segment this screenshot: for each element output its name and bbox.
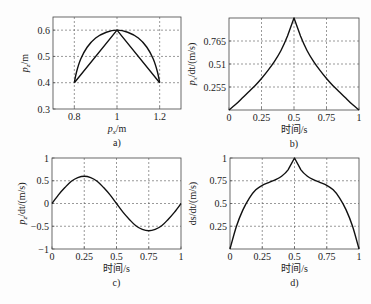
y-tick-label: 1 <box>222 153 227 164</box>
y-axis-label: pz/m <box>19 54 32 74</box>
x-axis-label: px/m <box>107 123 127 136</box>
y-tick-label: 0.765 <box>204 36 227 47</box>
x-tick-label: 0.75 <box>318 112 336 123</box>
y-tick-label: 0.4 <box>38 77 51 88</box>
x-tick-label: 0.5 <box>288 112 301 123</box>
y-tick-label: 0.5 <box>37 175 50 186</box>
subplot-caption: a) <box>113 137 121 149</box>
x-tick-label: 0.25 <box>254 251 272 262</box>
subplot-caption: c) <box>113 277 121 289</box>
subplot-d: 00.250.50.7510.250.50.751时间/sds/dt/(m/s)… <box>187 153 362 290</box>
y-tick-label: 0.25 <box>210 221 228 232</box>
x-tick-label: 0 <box>50 251 55 262</box>
x-tick-label: 1 <box>357 112 362 123</box>
x-tick-label: 0.5 <box>110 251 123 262</box>
x-axis-label: 时间/s <box>103 262 130 274</box>
x-tick-label: 0.8 <box>68 111 81 122</box>
y-axis-label: px/dt/(m/s) <box>186 43 199 87</box>
x-tick-label: 1 <box>115 111 120 122</box>
figure: 0.811.20.30.40.50.6px/mpz/ma) 00.250.50.… <box>0 0 371 304</box>
y-tick-labels: 0.2550.510.765 <box>204 36 232 93</box>
x-tick-label: 0 <box>228 251 233 262</box>
x-tick-label: 0.75 <box>140 251 158 262</box>
y-tick-label: 0.3 <box>38 104 51 115</box>
y-tick-label: 0.75 <box>210 175 228 186</box>
y-tick-labels: 0.250.50.751 <box>210 153 233 232</box>
x-tick-label: 1 <box>179 251 184 262</box>
y-tick-label: −0.5 <box>31 221 49 232</box>
x-axis-label: 时间/s <box>281 123 308 135</box>
x-axis-label: 时间/s <box>281 262 308 274</box>
y-tick-label: 0.255 <box>204 82 227 93</box>
y-tick-label: 0 <box>44 198 49 209</box>
subplot-caption: d) <box>290 277 298 289</box>
subplot-c: 00.250.50.751−1−0.500.51时间/spz/dt/(m/s)c… <box>16 153 184 290</box>
y-tick-label: 0.6 <box>38 25 51 36</box>
x-tick-label: 0.25 <box>253 112 271 123</box>
y-axis-label: ds/dt/(m/s) <box>187 182 199 225</box>
x-tick-label: 0.5 <box>288 251 301 262</box>
y-axis-label: pz/dt/(m/s) <box>16 182 29 225</box>
y-tick-label: 0.51 <box>209 59 227 70</box>
subplot-caption: b) <box>290 138 298 150</box>
subplot-b: 00.250.50.7510.2550.510.765时间/spx/dt/(m/… <box>186 18 362 150</box>
y-tick-label: −1 <box>38 244 49 255</box>
x-tick-label: 0.75 <box>318 251 336 262</box>
y-tick-label: 1 <box>44 153 49 164</box>
x-tick-label: 1 <box>357 251 362 262</box>
x-tick-label: 0 <box>227 112 232 123</box>
y-tick-label: 0.5 <box>215 198 228 209</box>
x-tick-label: 1.2 <box>153 111 166 122</box>
x-tick-label: 0.25 <box>76 251 94 262</box>
y-tick-label: 0.5 <box>38 51 51 62</box>
y-tick-labels: −1−0.500.51 <box>31 153 55 255</box>
subplot-a: 0.811.20.30.40.50.6px/mpz/ma) <box>19 17 181 149</box>
